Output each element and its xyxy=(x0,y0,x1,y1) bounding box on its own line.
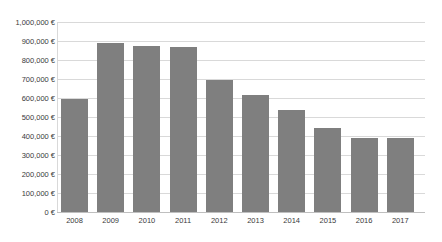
x-tick-label: 2016 xyxy=(344,216,384,225)
y-tick-label: 500,000 € xyxy=(3,113,55,122)
x-tick-label: 2011 xyxy=(163,216,203,225)
y-tick-label: 600,000 € xyxy=(3,94,55,103)
y-tick-label: 400,000 € xyxy=(3,132,55,141)
x-tick-label: 2013 xyxy=(236,216,276,225)
x-tick-label: 2014 xyxy=(272,216,312,225)
x-tick-label: 2012 xyxy=(199,216,239,225)
y-tick-label: 300,000 € xyxy=(3,151,55,160)
y-axis-labels: 1,000,000 € 900,000 € 800,000 € 700,000 … xyxy=(0,0,55,242)
bar-chart: 1,000,000 € 900,000 € 800,000 € 700,000 … xyxy=(0,0,442,242)
x-tick-label: 2017 xyxy=(380,216,420,225)
x-axis-labels: 2008 2009 2010 2011 2012 2013 2014 2015 … xyxy=(57,0,425,242)
y-tick-label: 1,000,000 € xyxy=(3,18,55,27)
y-tick-label: 800,000 € xyxy=(3,56,55,65)
y-tick-label: 0 € xyxy=(3,208,55,217)
y-tick-label: 100,000 € xyxy=(3,189,55,198)
x-tick-label: 2008 xyxy=(55,216,95,225)
x-tick-label: 2010 xyxy=(127,216,167,225)
y-tick-label: 700,000 € xyxy=(3,75,55,84)
y-tick-label: 200,000 € xyxy=(3,170,55,179)
x-tick-label: 2009 xyxy=(91,216,131,225)
x-tick-label: 2015 xyxy=(308,216,348,225)
y-tick-label: 900,000 € xyxy=(3,37,55,46)
